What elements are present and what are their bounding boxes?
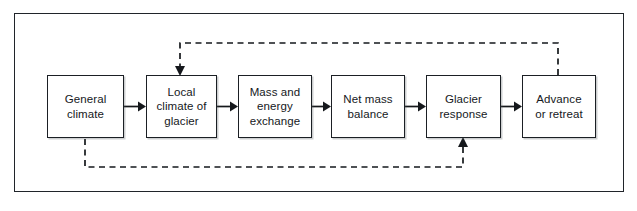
node-glacier-response[interactable]: Glacier response (426, 75, 501, 138)
node-local-climate[interactable]: Local climate of glacier (146, 75, 217, 138)
node-net-mass-balance[interactable]: Net mass balance (331, 75, 405, 138)
node-glacier-response-label: Glacier response (439, 92, 487, 121)
node-general-climate-label: General climate (65, 92, 107, 121)
figure-canvas: General climate Local climate of glacier… (0, 0, 637, 211)
node-general-climate[interactable]: General climate (47, 75, 124, 138)
node-net-mass-balance-label: Net mass balance (343, 92, 392, 121)
node-advance-or-retreat[interactable]: Advance or retreat (522, 75, 596, 138)
node-advance-or-retreat-label: Advance or retreat (535, 92, 583, 121)
node-mass-energy[interactable]: Mass and energy exchange (238, 75, 312, 138)
node-local-climate-label: Local climate of glacier (156, 85, 206, 129)
node-mass-energy-label: Mass and energy exchange (250, 85, 301, 129)
